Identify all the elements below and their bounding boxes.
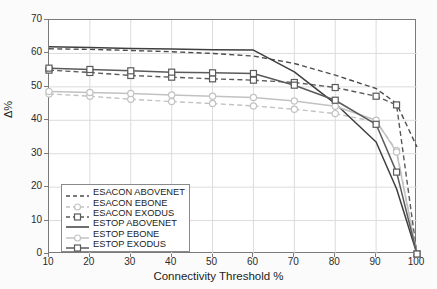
legend-label: ESTOP EXODUS (93, 239, 166, 249)
legend-line-sample (65, 198, 90, 208)
legend-label: ESTOP ABOVENET (93, 218, 177, 228)
legend-item: ESACON EXODUS (65, 208, 185, 218)
legend-item: ESTOP EBONE (65, 229, 185, 239)
x-axis-tick-mark (48, 253, 49, 257)
x-axis-title: Connectivity Threshold % (0, 270, 437, 282)
series-marker (291, 98, 297, 104)
series-marker (128, 68, 134, 74)
series-marker (414, 251, 420, 257)
x-axis-tick-label: 90 (355, 256, 395, 267)
series-marker (394, 102, 400, 108)
y-axis-tick-label: 30 (8, 147, 42, 158)
series-marker (46, 65, 52, 71)
series-marker (169, 98, 175, 104)
series-marker (46, 88, 52, 94)
legend-line-sample (65, 218, 90, 228)
y-axis-tick-label: 60 (8, 46, 42, 57)
series-marker (332, 97, 338, 103)
series-marker (394, 169, 400, 175)
y-axis-tick-label: 40 (8, 113, 42, 124)
series-marker (169, 92, 175, 98)
legend-label: ESACON ABOVENET (93, 187, 185, 197)
x-axis-tick-label: 10 (28, 256, 68, 267)
series-marker (291, 106, 297, 112)
x-axis-tick-label: 20 (69, 256, 109, 267)
legend-line-sample (65, 239, 90, 249)
series-marker (169, 69, 175, 75)
legend-item: ESTOP ABOVENET (65, 218, 185, 228)
legend-label: ESACON EBONE (93, 198, 167, 208)
legend-line-sample (65, 229, 90, 239)
series-marker (250, 103, 256, 109)
series-marker (210, 70, 216, 76)
legend-item: ESTOP EXODUS (65, 239, 185, 249)
series-marker (209, 93, 215, 99)
figure: Δ% 010203040506070 102030405060708090100… (0, 0, 437, 289)
x-axis-tick-label: 50 (192, 256, 232, 267)
series-marker (250, 94, 256, 100)
x-axis-tick-label: 40 (151, 256, 191, 267)
y-axis-tick-label: 20 (8, 180, 42, 191)
series-marker (87, 66, 93, 72)
legend-item: ESACON EBONE (65, 197, 185, 207)
series-marker (250, 70, 256, 76)
series-marker (393, 149, 399, 155)
legend-line-sample (65, 208, 90, 218)
series-marker (128, 90, 134, 96)
x-axis-tick-label: 70 (273, 256, 313, 267)
series-marker (332, 85, 338, 91)
x-axis-tick-label: 80 (314, 256, 354, 267)
y-axis-tick-label: 50 (8, 80, 42, 91)
series-marker (210, 76, 216, 82)
series-marker (87, 89, 93, 95)
x-axis-tick-label: 30 (110, 256, 150, 267)
x-axis-tick-label: 100 (396, 256, 436, 267)
legend-item: ESACON ABOVENET (65, 187, 185, 197)
series-marker (291, 82, 297, 88)
x-axis-tick-label: 60 (232, 256, 272, 267)
legend: ESACON ABOVENETESACON EBONEESACON EXODUS… (61, 184, 190, 252)
series-marker (332, 111, 338, 117)
series-marker (373, 121, 379, 127)
series-line (49, 49, 417, 147)
y-axis-tick-label: 10 (8, 214, 42, 225)
legend-line-sample (65, 187, 90, 197)
series-marker (209, 100, 215, 106)
legend-label: ESTOP EBONE (93, 229, 159, 239)
series-marker (250, 77, 256, 83)
legend-label: ESACON EXODUS (93, 208, 174, 218)
series-marker (332, 103, 338, 109)
y-axis-tick-label: 70 (8, 13, 42, 24)
series-marker (373, 93, 379, 99)
